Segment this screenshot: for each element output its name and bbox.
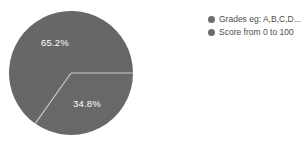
- pie-slice-label-grades: 65.2%: [41, 37, 69, 48]
- chart-legend: Grades eg: A,B,C,D... Score from 0 to 10…: [208, 14, 303, 40]
- legend-swatch-icon-score: [208, 29, 215, 36]
- pie-slice-label-score: 34.8%: [73, 98, 101, 109]
- pie-chart-plot-area: 65.2% 34.8%: [9, 11, 133, 135]
- legend-item-score[interactable]: Score from 0 to 100: [208, 27, 303, 38]
- legend-label-grades: Grades eg: A,B,C,D...: [219, 14, 301, 25]
- pie-chart-figure: 65.2% 34.8% Grades eg: A,B,C,D... Score …: [0, 0, 305, 146]
- legend-label-score: Score from 0 to 100: [219, 27, 294, 38]
- legend-item-grades[interactable]: Grades eg: A,B,C,D...: [208, 14, 303, 25]
- pie-chart-svg: 65.2% 34.8%: [9, 11, 133, 135]
- legend-swatch-icon-grades: [208, 16, 215, 23]
